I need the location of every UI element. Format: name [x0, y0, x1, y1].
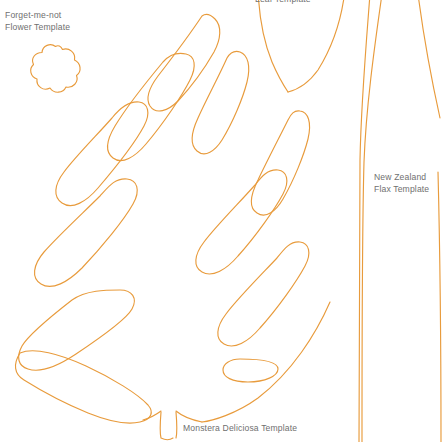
- label-top-leaf-template: Leaf Template: [255, 0, 311, 6]
- flax-blade-1-left-edge: [359, 0, 370, 442]
- flax-blade-3-right-edge: [438, 172, 441, 442]
- template-sheet: Leaf Template Forget-me-not Flower Templ…: [0, 0, 442, 442]
- template-outlines-artwork: [0, 0, 442, 442]
- monstera-stem-shoulder-left: [143, 411, 161, 420]
- monstera-stem-right: [176, 412, 177, 438]
- monstera-stem-left: [160, 412, 173, 440]
- label-new-zealand-flax-template: New Zealand Flax Template: [374, 172, 429, 195]
- monstera-lobe-right-2: [196, 170, 287, 274]
- top-leaf-left-edge: [258, 0, 288, 92]
- monstera-lower-margin: [202, 302, 330, 422]
- monstera-lobe-upper-2: [192, 51, 249, 153]
- forget-me-not-flower-outline: [31, 45, 80, 92]
- monstera-stem-shoulder-right: [176, 411, 202, 422]
- monstera-leaf-hole-oval: [223, 359, 278, 382]
- flax-blade-2-left-edge: [418, 0, 440, 118]
- monstera-lobe-mid-2: [56, 102, 148, 206]
- top-leaf-right-edge: [288, 0, 345, 92]
- label-monstera-deliciosa-template: Monstera Deliciosa Template: [183, 423, 297, 435]
- monstera-lobe-lower-2: [19, 290, 135, 370]
- monstera-lobe-lower-3: [15, 351, 151, 423]
- label-forget-me-not-flower-template: Forget-me-not Flower Template: [5, 10, 70, 33]
- monstera-lobe-upper-1: [148, 15, 220, 111]
- monstera-lobe-right-3: [218, 242, 309, 346]
- monstera-lobe-lower-1: [35, 179, 138, 287]
